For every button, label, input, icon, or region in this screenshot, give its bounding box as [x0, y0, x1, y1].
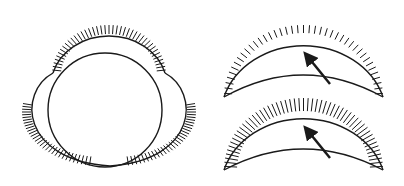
crescent-top: [224, 25, 383, 97]
crescent-bottom: [224, 98, 383, 170]
diagram: [0, 0, 404, 186]
right-lobe: [110, 73, 186, 166]
base-circle: [48, 53, 162, 167]
three-lobe-circle: [22, 25, 196, 167]
top-lobe: [53, 36, 165, 73]
left-lobe: [32, 73, 110, 166]
